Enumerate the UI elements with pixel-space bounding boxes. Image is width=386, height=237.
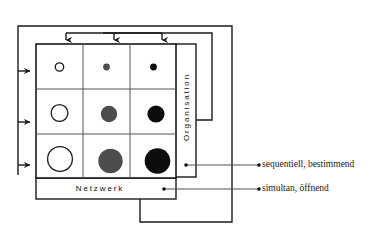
- legend-label-sequentiell: sequentiell, bestimmend: [262, 160, 354, 170]
- matrix-cell-r1c1-circle: [101, 106, 117, 122]
- legend-bullet-sequentiell: [257, 163, 261, 167]
- matrix-diagram-svg: [0, 0, 386, 237]
- organisation-axis-dot: [184, 163, 188, 167]
- matrix-cell-r0c2-circle: [150, 64, 157, 71]
- matrix-cell-r1c2-circle: [147, 105, 164, 122]
- matrix-cell-r2c2-circle: [145, 148, 171, 174]
- top-column-arrows: [66, 33, 162, 40]
- left-row-arrows: [18, 71, 30, 165]
- diagram-canvas: Organisation Netzwerk sequentiell, besti…: [0, 0, 386, 237]
- netzwerk-axis-label: Netzwerk: [44, 185, 156, 193]
- matrix-cell-r0c1-circle: [103, 64, 110, 71]
- matrix-cell-r2c0-circle: [48, 147, 73, 172]
- matrix-cell-r0c0-circle: [55, 63, 63, 71]
- legend-bullet-simultan: [257, 187, 261, 191]
- matrix-cell-r1c0-circle: [51, 105, 68, 122]
- netzwerk-axis-dot: [162, 187, 166, 191]
- matrix-cell-r2c1-circle: [98, 149, 122, 173]
- legend-label-simultan: simultan, öffnend: [262, 184, 329, 194]
- organisation-axis-label: Organisation: [183, 65, 191, 149]
